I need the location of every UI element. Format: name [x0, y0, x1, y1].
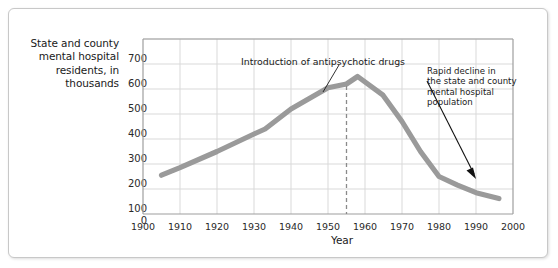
annotation-rapid-decline-line: the state and county [427, 76, 539, 86]
annotation-antipsychotic-drugs: Introduction of antipsychotic drugs [223, 57, 423, 67]
plot-area [9, 9, 549, 259]
figure-card: State and county mental hospital residen… [8, 8, 548, 258]
annotation-rapid-decline-line: population [427, 97, 539, 107]
chart-stage: State and county mental hospital residen… [9, 9, 549, 259]
annotation-rapid-decline: Rapid decline in the state and county me… [427, 66, 539, 108]
annotation-rapid-decline-line: Rapid decline in [427, 66, 539, 76]
annotation-rapid-decline-line: mental hospital [427, 87, 539, 97]
